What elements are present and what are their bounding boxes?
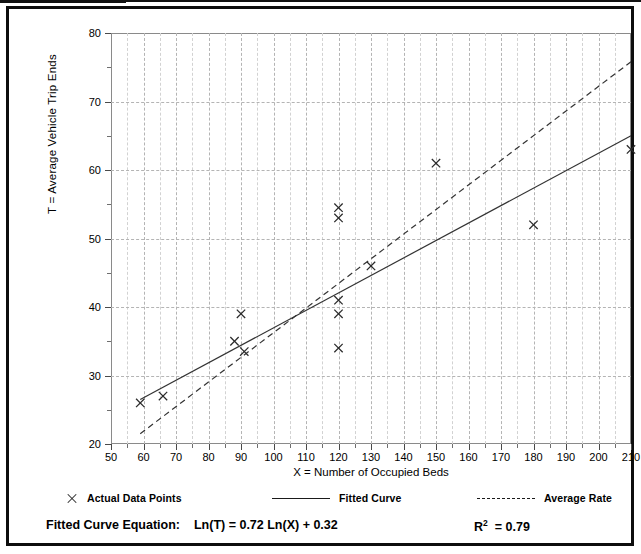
- x-axis-tick: [355, 444, 356, 448]
- x-marker-icon: [65, 492, 78, 505]
- x-axis-tick: [274, 444, 275, 450]
- x-axis-tick: [127, 444, 128, 448]
- x-axis-tick: [550, 444, 551, 448]
- r-squared-value: R2 = 0.79: [474, 518, 530, 534]
- figure-page: 5060708090100110120130140150160170180190…: [0, 0, 641, 554]
- legend-item-average-rate: Average Rate: [477, 487, 612, 509]
- y-axis-tick: [105, 444, 111, 445]
- x-axis-tick-label: 110: [291, 451, 321, 463]
- x-axis-tick-label: 150: [421, 451, 451, 463]
- x-axis-tick: [176, 444, 177, 450]
- x-axis-tick: [160, 444, 161, 448]
- x-axis-tick: [111, 444, 112, 450]
- x-axis-tick: [485, 444, 486, 448]
- r-value: = 0.79: [495, 520, 530, 534]
- y-axis-tick-label: 70: [75, 97, 101, 107]
- x-axis-tick: [290, 444, 291, 448]
- fitted-curve-equation: Fitted Curve Equation: Ln(T) = 0.72 Ln(X…: [46, 518, 338, 532]
- x-axis-tick-label: 80: [194, 451, 224, 463]
- x-axis-tick: [339, 444, 340, 450]
- y-axis-tick-label: 60: [75, 165, 101, 175]
- x-axis-tick: [452, 444, 453, 448]
- x-axis-tick: [371, 444, 372, 450]
- y-axis-tick-label: 80: [75, 28, 101, 38]
- x-axis-tick: [517, 444, 518, 448]
- x-axis-tick: [144, 444, 145, 450]
- series-points-actual-data-points: [136, 145, 635, 407]
- plot-host: 5060708090100110120130140150160170180190…: [0, 0, 641, 554]
- x-axis-tick-label: 170: [486, 451, 516, 463]
- x-axis-tick-label: 100: [259, 451, 289, 463]
- x-axis-tick-label: 60: [129, 451, 159, 463]
- y-axis-title: T = Average Vehicle Trip Ends: [46, 24, 58, 244]
- x-axis-tick-label: 50: [96, 451, 126, 463]
- x-axis-tick: [566, 444, 567, 450]
- y-axis-tick-label: 40: [75, 302, 101, 312]
- y-axis-tick-label: 50: [75, 234, 101, 244]
- x-axis-tick-label: 200: [584, 451, 614, 463]
- y-axis-tick-label: 20: [75, 439, 101, 449]
- x-axis-tick: [225, 444, 226, 448]
- x-axis-tick: [241, 444, 242, 450]
- chart-legend: Actual Data Points Fitted Curve Average …: [10, 487, 631, 509]
- x-axis-tick: [615, 444, 616, 448]
- x-axis-tick: [501, 444, 502, 450]
- r-exponent: 2: [483, 518, 488, 528]
- equation-value: Ln(T) = 0.72 Ln(X) + 0.32: [194, 518, 338, 532]
- legend-item-fitted-curve: Fitted Curve: [272, 487, 401, 509]
- x-axis-tick-label: 190: [551, 451, 581, 463]
- x-axis-tick-label: 130: [356, 451, 386, 463]
- equation-label: Fitted Curve Equation:: [46, 518, 180, 532]
- x-axis-tick: [209, 444, 210, 450]
- x-axis-tick-label: 90: [226, 451, 256, 463]
- legend-label-actual-data-points: Actual Data Points: [87, 492, 182, 504]
- x-axis-tick: [322, 444, 323, 448]
- x-axis-tick-label: 70: [161, 451, 191, 463]
- legend-item-actual-data-points: Actual Data Points: [65, 487, 182, 509]
- x-axis-tick: [257, 444, 258, 448]
- x-axis-tick: [599, 444, 600, 450]
- x-axis-tick: [534, 444, 535, 450]
- legend-label-average-rate: Average Rate: [544, 492, 612, 504]
- x-axis-title: X = Number of Occupied Beds: [111, 466, 631, 478]
- x-axis-tick: [420, 444, 421, 448]
- series-line-average-rate: [140, 62, 631, 434]
- x-axis-tick-label: 210: [616, 451, 641, 463]
- r-symbol: R: [474, 520, 483, 534]
- data-series-canvas: [111, 33, 631, 444]
- x-axis-tick-label: 120: [324, 451, 354, 463]
- legend-label-fitted-curve: Fitted Curve: [339, 492, 401, 504]
- solid-line-icon: [272, 498, 330, 499]
- chart-footer: Fitted Curve Equation: Ln(T) = 0.72 Ln(X…: [10, 518, 631, 544]
- x-axis-tick: [631, 444, 632, 450]
- series-line-fitted-curve: [140, 136, 631, 400]
- x-axis-tick: [469, 444, 470, 450]
- x-axis-tick: [582, 444, 583, 448]
- x-axis-tick-label: 140: [389, 451, 419, 463]
- dashed-line-icon: [477, 498, 535, 499]
- x-axis-tick: [192, 444, 193, 448]
- x-axis-tick: [387, 444, 388, 448]
- y-axis-tick-label: 30: [75, 371, 101, 381]
- x-axis-tick: [436, 444, 437, 450]
- x-axis-tick: [404, 444, 405, 450]
- x-axis-tick-label: 160: [454, 451, 484, 463]
- x-axis-tick: [306, 444, 307, 450]
- x-axis-tick-label: 180: [519, 451, 549, 463]
